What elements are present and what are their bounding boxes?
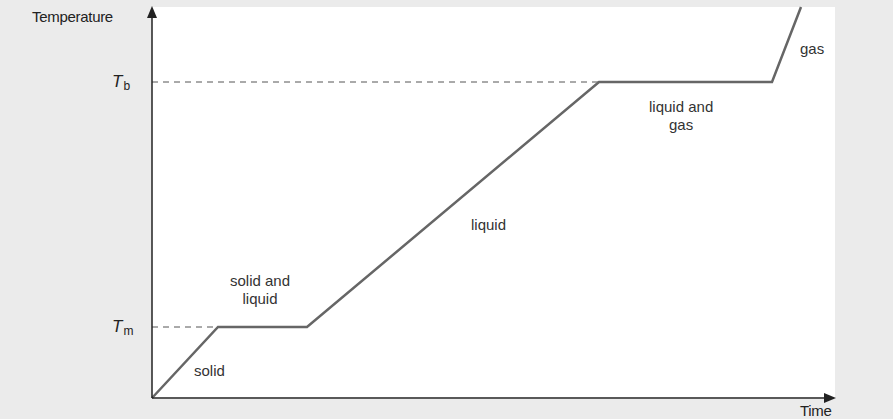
x-axis-label: Time bbox=[800, 402, 832, 419]
tm-tick-label: Tm bbox=[112, 317, 133, 338]
heating-curve bbox=[152, 7, 801, 398]
label-solid-and-liquid: solid and liquid bbox=[230, 272, 290, 308]
tb-subscript: b bbox=[123, 79, 130, 93]
label-solid-and-liquid-line2: liquid bbox=[230, 290, 290, 308]
label-solid: solid bbox=[194, 362, 225, 380]
label-liquid-and-gas: liquid and gas bbox=[649, 98, 713, 134]
label-solid-and-liquid-line1: solid and bbox=[230, 272, 290, 290]
tb-symbol: T bbox=[112, 72, 122, 91]
label-liquid-and-gas-line1: liquid and bbox=[649, 98, 713, 116]
tm-symbol: T bbox=[112, 317, 122, 336]
tm-subscript: m bbox=[123, 324, 133, 338]
y-axis-label: Temperature bbox=[32, 8, 113, 25]
label-gas: gas bbox=[800, 40, 824, 58]
y-axis-arrow-icon bbox=[147, 6, 157, 18]
label-liquid-and-gas-line2: gas bbox=[649, 116, 713, 134]
label-liquid: liquid bbox=[471, 216, 506, 234]
tb-tick-label: Tb bbox=[112, 72, 130, 93]
